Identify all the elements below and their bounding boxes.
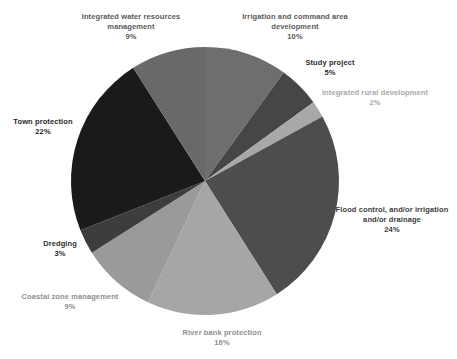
slice-percent-label: 9% xyxy=(82,32,180,42)
slice-label-dredging: Dredging3% xyxy=(43,239,77,259)
pie-chart: Irrigation and command areadevelopment10… xyxy=(0,0,457,359)
slice-label-line: Town protection xyxy=(13,117,72,127)
slice-label-irrigation-and-command-area-development: Irrigation and command areadevelopment10… xyxy=(242,12,348,42)
slice-percent-label: 24% xyxy=(336,225,449,235)
slice-label-line: Dredging xyxy=(43,239,77,249)
slice-percent-label: 9% xyxy=(22,302,119,312)
slice-label-line: development xyxy=(242,22,348,32)
slice-label-line: management xyxy=(82,22,180,32)
slice-percent-label: 5% xyxy=(305,68,354,78)
slice-label-coastal-zone-management: Coastal zone management9% xyxy=(22,292,119,312)
pie-slices-group xyxy=(71,47,339,315)
slice-percent-label: 3% xyxy=(43,249,77,259)
slice-label-line: Study project xyxy=(305,58,354,68)
slice-label-line: River bank protection xyxy=(182,328,261,338)
slice-label-integrated-rural-development: Integrated rural development2% xyxy=(322,88,428,108)
slice-label-line: Integrated water resources xyxy=(82,12,180,22)
slice-label-line: Flood control, and/or irrigation xyxy=(336,205,449,215)
slice-percent-label: 10% xyxy=(242,32,348,42)
slice-percent-label: 16% xyxy=(182,338,261,348)
slice-label-town-protection: Town protection22% xyxy=(13,117,72,137)
slice-label-line: Coastal zone management xyxy=(22,292,119,302)
slice-label-flood-control-and-or-irrigation-and-or-drainage: Flood control, and/or irrigationand/or d… xyxy=(336,205,449,235)
slice-percent-label: 22% xyxy=(13,127,72,137)
slice-label-integrated-water-resources-management: Integrated water resourcesmanagement9% xyxy=(82,12,180,42)
slice-label-line: Irrigation and command area xyxy=(242,12,348,22)
slice-label-study-project: Study project5% xyxy=(305,58,354,78)
slice-label-line: Integrated rural development xyxy=(322,88,428,98)
slice-label-river-bank-protection: River bank protection16% xyxy=(182,328,261,348)
slice-label-line: and/or drainage xyxy=(336,215,449,225)
slice-percent-label: 2% xyxy=(322,98,428,108)
